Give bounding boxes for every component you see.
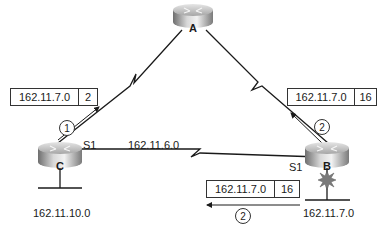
route-metric: 16 <box>355 89 376 105</box>
serial-link-c-b <box>72 149 320 157</box>
serial-link-c-a <box>58 30 182 143</box>
route-metric: 16 <box>275 181 299 197</box>
router-b-label: B <box>323 160 331 172</box>
network-lan-b-label: 162.11.7.0 <box>303 207 354 219</box>
step-1-marker: 1 <box>59 120 75 136</box>
route-network: 162.11.7.0 <box>207 181 275 197</box>
route-network: 162.11.7.0 <box>11 89 79 105</box>
router-a-label: A <box>189 22 197 34</box>
router-c-label: C <box>56 160 64 172</box>
step-2-marker-b-to-a: 2 <box>314 119 330 135</box>
route-network: 162.11.7.0 <box>288 89 355 105</box>
link-failure-icon <box>318 171 336 190</box>
route-update-b-to-a: 162.11.7.0 16 <box>287 88 377 106</box>
network-link-c-b-label: 162.11.6.0 <box>128 139 179 151</box>
route-update-b-to-c: 162.11.7.0 16 <box>206 180 300 198</box>
network-lan-c-label: 162.11.10.0 <box>33 207 90 219</box>
interface-b-s1-label: S1 <box>289 161 302 173</box>
serial-link-a-b <box>206 30 328 143</box>
route-metric: 2 <box>79 89 97 105</box>
route-update-c-to-a: 162.11.7.0 2 <box>10 88 98 106</box>
network-diagram <box>0 0 389 233</box>
step-2-marker-b-to-c: 2 <box>235 208 251 224</box>
interface-c-s1-label: S1 <box>83 139 96 151</box>
